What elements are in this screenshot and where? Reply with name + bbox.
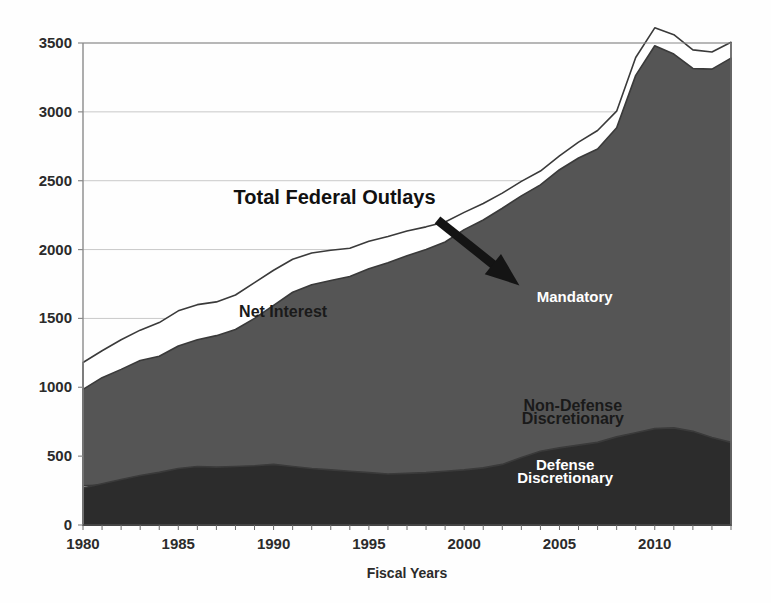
x-tick-label: 1980: [66, 535, 99, 552]
x-tick-label: 2010: [638, 535, 671, 552]
x-tick-label: 2000: [447, 535, 480, 552]
x-tick-label: 2005: [543, 535, 576, 552]
y-tick-label: 2500: [39, 172, 72, 189]
annotation-total-federal-outlays: Total Federal Outlays: [234, 186, 436, 208]
y-tick-label: 1500: [39, 309, 72, 326]
y-tick-label: 1000: [39, 378, 72, 395]
y-tick-label: 2000: [39, 241, 72, 258]
y-tick-label: 3500: [39, 34, 72, 51]
x-axis-title: Fiscal Years: [367, 565, 448, 581]
stacked-area-chart: 0500100015002000250030003500 19801985199…: [0, 0, 771, 603]
y-tick-label: 0: [64, 516, 72, 533]
y-tick-label: 500: [47, 447, 72, 464]
annotation-net-interest: Net Interest: [239, 303, 328, 320]
x-tick-label: 1995: [352, 535, 385, 552]
x-tick-label: 1985: [162, 535, 195, 552]
y-tick-label: 3000: [39, 103, 72, 120]
chart-canvas: 0500100015002000250030003500 19801985199…: [0, 0, 771, 603]
annotation-defense-discretionary-line2: Discretionary: [517, 469, 614, 486]
x-tick-label: 1990: [257, 535, 290, 552]
annotation-non-defense-discretionary-line2: Discretionary: [522, 410, 624, 427]
annotation-mandatory: Mandatory: [537, 288, 614, 305]
